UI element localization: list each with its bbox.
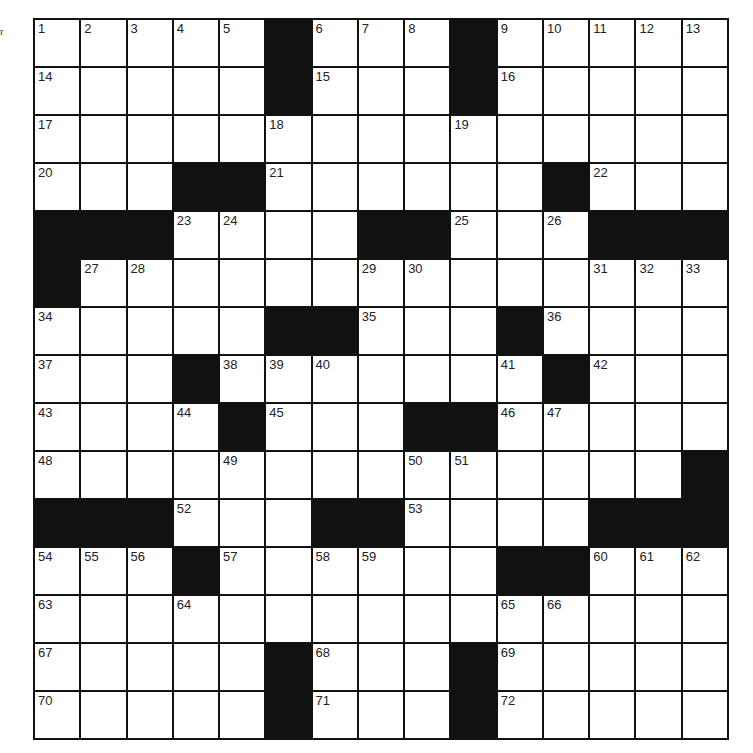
grid-cell[interactable] <box>636 116 680 162</box>
grid-cell[interactable]: 10 <box>544 20 588 66</box>
grid-cell[interactable] <box>220 596 264 642</box>
grid-cell[interactable] <box>128 308 172 354</box>
grid-cell[interactable] <box>313 164 357 210</box>
grid-cell[interactable]: 20 <box>35 164 79 210</box>
grid-cell[interactable] <box>313 596 357 642</box>
grid-cell[interactable]: 19 <box>451 116 495 162</box>
grid-cell[interactable] <box>81 68 125 114</box>
grid-cell[interactable] <box>683 404 727 450</box>
grid-cell[interactable]: 50 <box>405 452 449 498</box>
grid-cell[interactable]: 16 <box>498 68 542 114</box>
grid-cell[interactable] <box>451 596 495 642</box>
grid-cell[interactable]: 44 <box>174 404 218 450</box>
grid-cell[interactable]: 66 <box>544 596 588 642</box>
grid-cell[interactable]: 32 <box>636 260 680 306</box>
grid-cell[interactable]: 25 <box>451 212 495 258</box>
grid-cell[interactable] <box>81 404 125 450</box>
grid-cell[interactable]: 58 <box>313 548 357 594</box>
grid-cell[interactable] <box>174 260 218 306</box>
grid-cell[interactable] <box>220 644 264 690</box>
grid-cell[interactable] <box>359 644 403 690</box>
grid-cell[interactable]: 53 <box>405 500 449 546</box>
grid-cell[interactable]: 70 <box>35 692 79 738</box>
grid-cell[interactable]: 17 <box>35 116 79 162</box>
grid-cell[interactable] <box>544 116 588 162</box>
grid-cell[interactable]: 15 <box>313 68 357 114</box>
grid-cell[interactable]: 6 <box>313 20 357 66</box>
grid-cell[interactable] <box>81 692 125 738</box>
grid-cell[interactable] <box>313 404 357 450</box>
grid-cell[interactable] <box>544 260 588 306</box>
grid-cell[interactable]: 26 <box>544 212 588 258</box>
grid-cell[interactable] <box>544 452 588 498</box>
grid-cell[interactable]: 62 <box>683 548 727 594</box>
grid-cell[interactable] <box>683 68 727 114</box>
grid-cell[interactable]: 2 <box>81 20 125 66</box>
grid-cell[interactable]: 51 <box>451 452 495 498</box>
grid-cell[interactable] <box>81 452 125 498</box>
grid-cell[interactable] <box>405 164 449 210</box>
grid-cell[interactable] <box>313 260 357 306</box>
grid-cell[interactable]: 34 <box>35 308 79 354</box>
grid-cell[interactable] <box>498 452 542 498</box>
grid-cell[interactable] <box>128 596 172 642</box>
grid-cell[interactable] <box>81 116 125 162</box>
grid-cell[interactable]: 21 <box>266 164 310 210</box>
grid-cell[interactable] <box>683 116 727 162</box>
grid-cell[interactable] <box>405 548 449 594</box>
grid-cell[interactable]: 43 <box>35 404 79 450</box>
grid-cell[interactable] <box>220 116 264 162</box>
grid-cell[interactable]: 63 <box>35 596 79 642</box>
grid-cell[interactable]: 18 <box>266 116 310 162</box>
grid-cell[interactable] <box>174 692 218 738</box>
grid-cell[interactable] <box>451 500 495 546</box>
grid-cell[interactable] <box>636 356 680 402</box>
grid-cell[interactable]: 1 <box>35 20 79 66</box>
grid-cell[interactable]: 56 <box>128 548 172 594</box>
grid-cell[interactable]: 59 <box>359 548 403 594</box>
grid-cell[interactable] <box>405 644 449 690</box>
grid-cell[interactable] <box>636 644 680 690</box>
grid-cell[interactable] <box>683 356 727 402</box>
grid-cell[interactable] <box>174 116 218 162</box>
grid-cell[interactable] <box>359 692 403 738</box>
grid-cell[interactable]: 71 <box>313 692 357 738</box>
grid-cell[interactable] <box>590 692 634 738</box>
grid-cell[interactable]: 61 <box>636 548 680 594</box>
grid-cell[interactable] <box>266 500 310 546</box>
grid-cell[interactable]: 27 <box>81 260 125 306</box>
grid-cell[interactable] <box>636 596 680 642</box>
grid-cell[interactable] <box>405 356 449 402</box>
grid-cell[interactable] <box>266 260 310 306</box>
grid-cell[interactable] <box>498 260 542 306</box>
grid-cell[interactable]: 9 <box>498 20 542 66</box>
grid-cell[interactable]: 13 <box>683 20 727 66</box>
grid-cell[interactable] <box>128 356 172 402</box>
grid-cell[interactable]: 57 <box>220 548 264 594</box>
grid-cell[interactable] <box>81 164 125 210</box>
grid-cell[interactable] <box>313 212 357 258</box>
grid-cell[interactable]: 14 <box>35 68 79 114</box>
grid-cell[interactable]: 47 <box>544 404 588 450</box>
grid-cell[interactable]: 40 <box>313 356 357 402</box>
grid-cell[interactable]: 8 <box>405 20 449 66</box>
grid-cell[interactable] <box>359 596 403 642</box>
grid-cell[interactable] <box>359 164 403 210</box>
grid-cell[interactable]: 12 <box>636 20 680 66</box>
grid-cell[interactable] <box>128 692 172 738</box>
grid-cell[interactable] <box>544 68 588 114</box>
grid-cell[interactable] <box>359 404 403 450</box>
grid-cell[interactable] <box>266 212 310 258</box>
grid-cell[interactable] <box>451 548 495 594</box>
grid-cell[interactable]: 68 <box>313 644 357 690</box>
grid-cell[interactable] <box>359 452 403 498</box>
grid-cell[interactable]: 49 <box>220 452 264 498</box>
grid-cell[interactable]: 3 <box>128 20 172 66</box>
grid-cell[interactable] <box>498 500 542 546</box>
grid-cell[interactable] <box>636 164 680 210</box>
grid-cell[interactable] <box>81 308 125 354</box>
grid-cell[interactable]: 11 <box>590 20 634 66</box>
grid-cell[interactable] <box>636 452 680 498</box>
grid-cell[interactable] <box>683 308 727 354</box>
grid-cell[interactable] <box>590 596 634 642</box>
